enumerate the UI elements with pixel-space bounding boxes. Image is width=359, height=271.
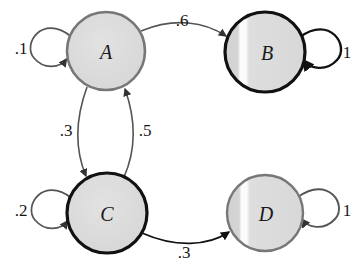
node-a[interactable]: A [67,12,145,90]
edge-label-a-to-c: .3 [60,121,73,140]
edge-a-self-loop-path [30,28,70,66]
edge-c-to-a-path [124,89,133,177]
edge-label-b-self: 1 [343,43,352,62]
node-a-label: A [98,41,113,63]
node-c-label: C [100,203,114,225]
node-b[interactable]: B [225,12,305,92]
graph-canvas: .1 .2 1 1 .6 .3 .5 [0,0,359,271]
edge-label-d-self: 1 [343,201,352,220]
edge-d-self-loop: 1 [298,189,351,227]
node-d-label: D [258,203,274,225]
edge-c-to-d: .3 [142,232,229,262]
node-c[interactable]: C [67,173,147,253]
edge-c-self-loop-path [31,190,71,228]
edge-c-self-loop: .2 [15,190,72,228]
edge-label-c-to-a: .5 [139,121,152,140]
node-b-label: B [261,42,273,64]
edge-label-c-self: .2 [15,201,28,220]
edge-label-c-to-d: .3 [178,243,191,262]
edge-b-self-loop: 1 [300,29,351,68]
edge-c-to-a: .5 [124,89,151,177]
edge-a-self-loop: .1 [15,28,71,66]
edge-d-self-loop-path [298,189,339,227]
edge-a-to-c-path [78,87,87,176]
node-d[interactable]: D [227,175,303,251]
edge-a-to-b: .6 [141,11,226,37]
state-diagram: .1 .2 1 1 .6 .3 .5 [0,0,359,271]
edge-label-a-to-b: .6 [176,11,189,30]
edge-label-a-self: .1 [15,39,28,58]
edge-a-to-c: .3 [60,87,87,176]
